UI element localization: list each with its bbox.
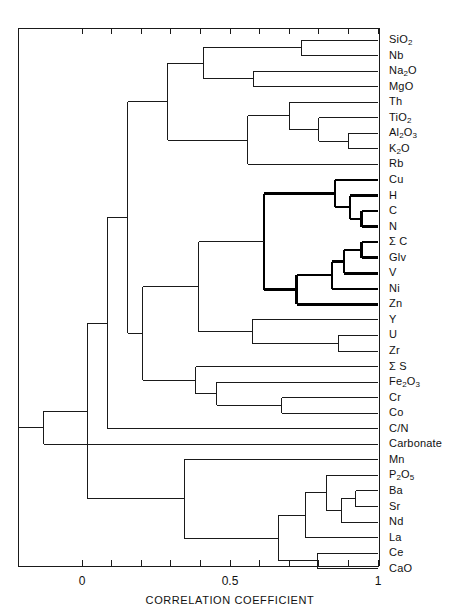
leaf-label-ce: Ce bbox=[389, 547, 403, 558]
dendrogram-tree bbox=[18, 40, 378, 569]
dendrogram-figure: SiO2NbNa2OMgOThTiO2Al2O3K2ORbCuHCNΣ CGlv… bbox=[0, 0, 468, 613]
leaf-label-tio2: TiO2 bbox=[389, 112, 411, 126]
leaf-label-nd: Nd bbox=[389, 516, 403, 527]
leaf-label-ba: Ba bbox=[389, 485, 403, 496]
leaf-label-nb: Nb bbox=[389, 50, 403, 61]
leaf-label-c: Σ C bbox=[389, 236, 407, 247]
leaf-label-sio2: SiO2 bbox=[389, 34, 412, 48]
leaf-label-rb: Rb bbox=[389, 158, 403, 169]
leaf-label-fe2o3: Fe2O3 bbox=[389, 376, 420, 390]
leaf-label-carbonate: Carbonate bbox=[389, 438, 442, 449]
leaf-label-na2o: Na2O bbox=[389, 65, 417, 79]
leaf-label-mn: Mn bbox=[389, 454, 405, 465]
leaf-label-th: Th bbox=[389, 96, 402, 107]
leaf-label-n: N bbox=[389, 221, 397, 232]
leaf-label-ni: Ni bbox=[389, 283, 400, 294]
leaf-label-s: Σ S bbox=[389, 361, 407, 372]
leaf-label-glv: Glv bbox=[389, 252, 406, 263]
leaf-label-p2o5: P2O5 bbox=[389, 469, 414, 483]
axis-tick-label: 1 bbox=[375, 574, 382, 588]
leaf-label-y: Y bbox=[389, 314, 397, 325]
leaf-label-cao: CaO bbox=[389, 563, 412, 574]
leaf-label-cn: C/N bbox=[389, 423, 409, 434]
leaf-label-al2o3: Al2O3 bbox=[389, 127, 417, 141]
leaf-label-zn: Zn bbox=[389, 298, 402, 309]
axis-tick-label: 0.5 bbox=[222, 574, 239, 588]
axis-tick-label: 0 bbox=[79, 574, 86, 588]
axis-title: CORRELATION COEFFICIENT bbox=[146, 594, 315, 606]
leaf-label-c: C bbox=[389, 205, 397, 216]
leaf-label-zr: Zr bbox=[389, 345, 400, 356]
leaf-label-la: La bbox=[389, 532, 402, 543]
leaf-label-v: V bbox=[389, 267, 397, 278]
leaf-label-h: H bbox=[389, 190, 397, 201]
leaf-label-cr: Cr bbox=[389, 392, 401, 403]
leaf-label-mgo: MgO bbox=[389, 81, 413, 92]
leaf-label-co: Co bbox=[389, 407, 403, 418]
leaf-label-cu: Cu bbox=[389, 174, 403, 185]
axis-ticks bbox=[82, 28, 378, 566]
leaf-label-k2o: K2O bbox=[389, 143, 410, 157]
leaf-label-u: U bbox=[389, 329, 397, 340]
leaf-label-sr: Sr bbox=[389, 501, 400, 512]
